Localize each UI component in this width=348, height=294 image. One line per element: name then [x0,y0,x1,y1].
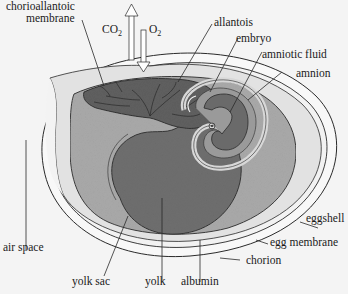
label-yolk-sac: yolk sac [72,275,110,288]
label-chorion: chorion [246,254,281,266]
label-egg-membrane: egg membrane [270,236,338,249]
label-amniotic-fluid: amniotic fluid [262,48,327,60]
label-membrane: membrane [26,12,75,24]
label-chorioallantoic: chorioallantoic [6,0,75,12]
label-amnion: amnion [296,67,331,79]
co2-arrow-icon [125,4,138,60]
label-yolk: yolk [145,275,166,288]
label-albumin: albumin [181,275,219,287]
egg-diagram: CO2 O2 chorioallantoic membrane allantoi… [0,0,348,294]
label-air-space: air space [3,241,44,254]
label-allantois: allantois [214,16,253,28]
co2-label: CO2 [102,23,122,38]
label-eggshell: eggshell [306,212,344,225]
o2-label: O2 [149,23,161,38]
label-embryo: embryo [236,32,271,45]
